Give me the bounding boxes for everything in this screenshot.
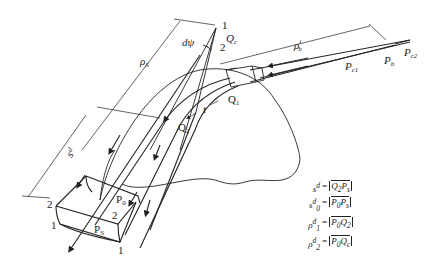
label-pc1: Pc1: [344, 60, 358, 74]
label-point-2-top: 2: [220, 41, 226, 53]
rho-b-dimension: [220, 24, 386, 64]
legend-row-s0d: sd0 = P0Ps: [296, 196, 376, 215]
label-corner-2-left: 2: [47, 198, 53, 210]
label-rho-s: ρS: [139, 55, 149, 69]
legend-row-rho2d: ρd2 = P0Qc: [296, 235, 376, 254]
definitions-legend: sd = Q2Ps sd0 = P0Ps ρd1 = P0Q2 ρd2 = P0…: [296, 180, 376, 254]
ray-tube-box: [226, 66, 264, 87]
label-corner-1-bottom: 1: [118, 244, 124, 256]
label-rho-b: ρib: [293, 38, 302, 53]
label-q1: Q1: [228, 93, 240, 107]
label-pc2: Pc2: [403, 46, 418, 60]
label-point-1-top: 1: [222, 19, 228, 31]
label-dpsi: dψ: [182, 36, 195, 48]
legend-row-rho1d: ρd1 = P0Q2: [296, 216, 376, 235]
label-s-d: sd: [63, 146, 78, 160]
label-corner-1-left: 1: [51, 219, 57, 231]
label-qc: Qc: [226, 32, 238, 46]
label-ps: PS: [94, 223, 104, 237]
label-corner-2-right: 2: [112, 209, 118, 221]
label-pb: Pb: [383, 54, 395, 68]
diffracted-rays: [70, 55, 238, 250]
legend-row-sd: sd = Q2Ps: [296, 180, 376, 196]
surface-outline: [100, 69, 300, 200]
label-p0: P0: [116, 193, 126, 207]
